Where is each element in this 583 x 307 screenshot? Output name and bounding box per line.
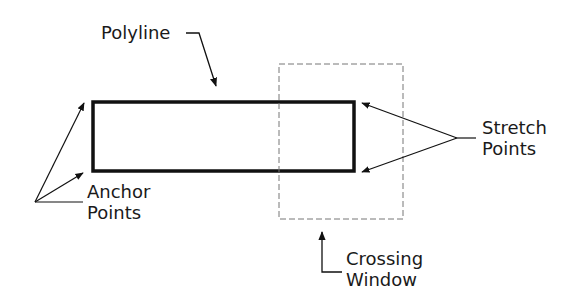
anchor-label-line2: Points bbox=[87, 202, 150, 223]
stretch-label-line1: Stretch bbox=[482, 117, 547, 138]
stretch-points-label: Stretch Points bbox=[482, 117, 547, 159]
crossing-label-line1: Crossing bbox=[346, 248, 423, 269]
stretch-label-line2: Points bbox=[482, 138, 547, 159]
anchor-points-label: Anchor Points bbox=[87, 181, 150, 223]
polyline-rectangle bbox=[93, 102, 354, 171]
polyline-label: Polyline bbox=[101, 22, 170, 43]
crossing-window-label: Crossing Window bbox=[346, 248, 423, 290]
crossing-window bbox=[279, 64, 403, 219]
anchor-label-line1: Anchor bbox=[87, 181, 150, 202]
polyline-label-text: Polyline bbox=[101, 22, 170, 43]
crossing-label-line2: Window bbox=[346, 269, 423, 290]
polyline-leader-arrow bbox=[186, 33, 216, 86]
crossing-window-leader-arrow bbox=[322, 232, 342, 272]
stretch-points-leaders bbox=[362, 103, 476, 172]
anchor-points-leaders bbox=[35, 103, 84, 202]
